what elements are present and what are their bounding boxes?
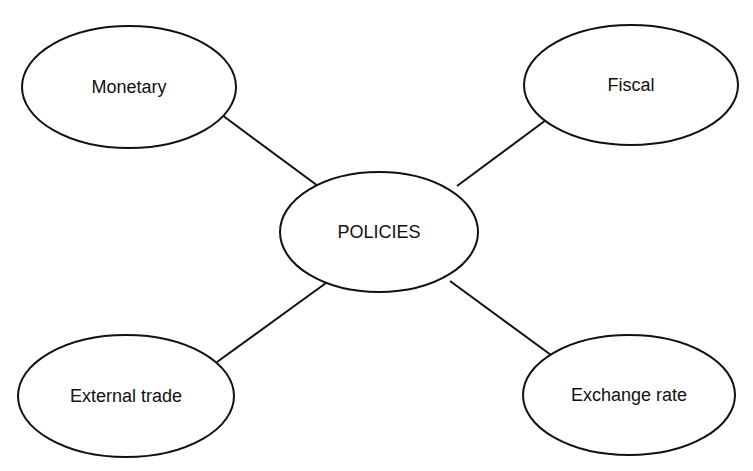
fiscal-label: Fiscal (607, 75, 654, 95)
connector-line-monetary (222, 115, 318, 186)
node-fiscal: Fiscal (524, 25, 738, 145)
external-trade-label: External trade (70, 386, 182, 406)
connector-line-external-trade (217, 283, 326, 362)
node-exchange-rate: Exchange rate (523, 335, 735, 455)
node-monetary: Monetary (22, 26, 236, 148)
monetary-label: Monetary (91, 77, 166, 97)
center-label: POLICIES (337, 222, 420, 242)
center-node-policies: POLICIES (280, 172, 478, 292)
policies-diagram: POLICIES Monetary Fiscal External trade … (0, 0, 753, 471)
connector-line-exchange-rate (450, 281, 551, 355)
connector-line-fiscal (457, 120, 546, 186)
node-external-trade: External trade (18, 335, 234, 457)
exchange-rate-label: Exchange rate (571, 385, 687, 405)
